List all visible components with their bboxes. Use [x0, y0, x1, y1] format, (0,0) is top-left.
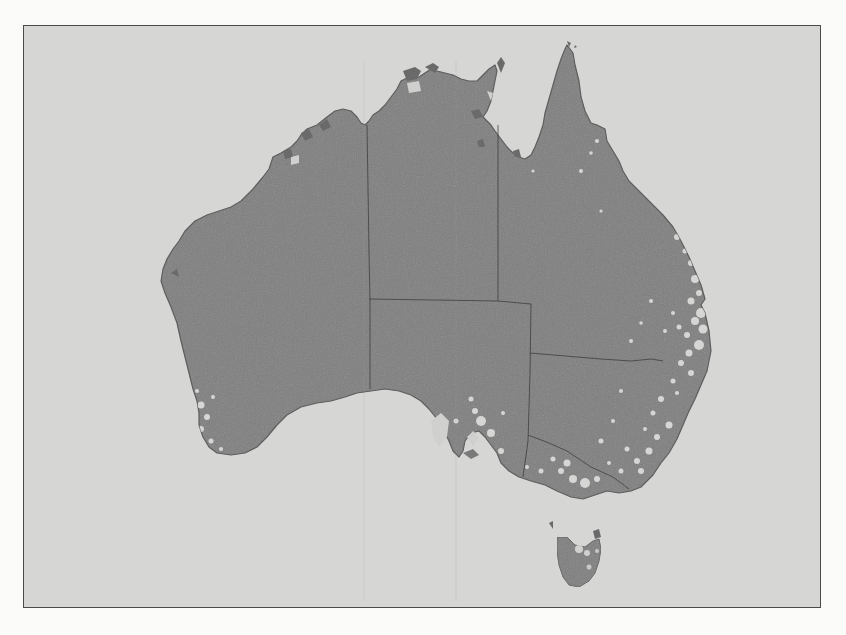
australia-map [23, 25, 821, 608]
tasmania-region [549, 521, 601, 587]
map-figure [23, 25, 821, 608]
kangaroo-island [463, 449, 479, 459]
